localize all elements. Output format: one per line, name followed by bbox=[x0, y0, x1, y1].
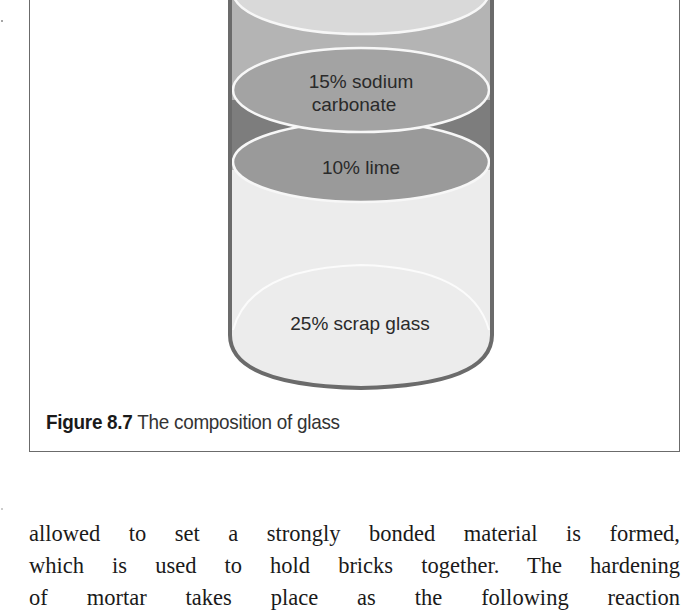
figure-caption: Figure 8.7 The composition of glass bbox=[46, 410, 340, 434]
label-sodium-line1: 15% sodium bbox=[309, 71, 414, 92]
label-lime: 10% lime bbox=[322, 157, 400, 178]
margin-mark bbox=[1, 20, 3, 22]
label-scrap-glass: 25% scrap glass bbox=[290, 313, 429, 334]
body-line: allowed to set a strongly bonded materia… bbox=[29, 518, 680, 550]
figure-title: The composition of glass bbox=[137, 410, 340, 433]
body-line: which is used to hold bricks together. T… bbox=[29, 550, 680, 582]
margin-mark bbox=[1, 508, 3, 510]
glass-composition-diagram: 15% sodium carbonate 10% lime 25% scrap … bbox=[0, 0, 699, 400]
label-sodium-line2: carbonate bbox=[312, 94, 397, 115]
figure-number: Figure 8.7 bbox=[46, 410, 133, 433]
cylinder: 15% sodium carbonate 10% lime 25% scrap … bbox=[230, 0, 492, 388]
body-paragraph: allowed to set a strongly bonded materia… bbox=[29, 518, 680, 614]
body-line: of mortar takes place as the following r… bbox=[29, 582, 680, 614]
